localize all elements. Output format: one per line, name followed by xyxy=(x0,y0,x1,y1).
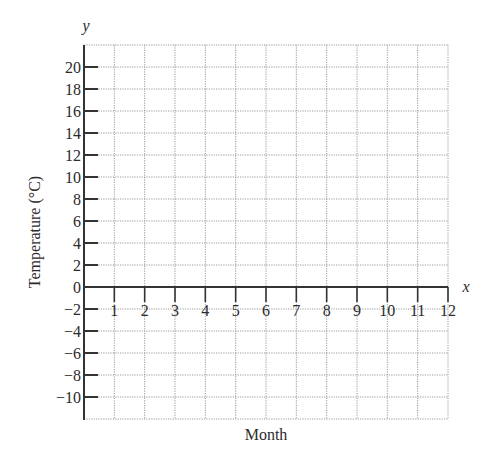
y-tick-label: 10 xyxy=(65,169,81,186)
y-tick-label: −6 xyxy=(64,345,81,362)
x-tick-label: 5 xyxy=(232,302,240,319)
y-axis-ticks: 20181614121086420−2−4−6−8−10 xyxy=(56,59,98,406)
grid-lines xyxy=(84,45,448,419)
x-axis-variable-label: x xyxy=(461,278,469,295)
x-axis-title: Month xyxy=(245,426,288,443)
x-tick-label: 4 xyxy=(201,302,209,319)
y-axis-variable-label: y xyxy=(80,17,90,35)
y-tick-label: 8 xyxy=(73,191,81,208)
x-tick-label: 3 xyxy=(171,302,179,319)
y-axis-title: Temperature (°C) xyxy=(26,176,44,288)
x-tick-label: 6 xyxy=(262,302,270,319)
y-tick-label: 2 xyxy=(73,257,81,274)
y-tick-label: 6 xyxy=(73,213,81,230)
y-tick-label: 14 xyxy=(65,125,81,142)
y-tick-label: −8 xyxy=(64,367,81,384)
x-tick-label: 9 xyxy=(353,302,361,319)
y-tick-label: 12 xyxy=(65,147,81,164)
chart: 20181614121086420−2−4−6−8−10 12345678910… xyxy=(0,0,489,452)
y-tick-label: −10 xyxy=(56,389,81,406)
x-tick-label: 11 xyxy=(410,302,425,319)
x-tick-label: 1 xyxy=(110,302,118,319)
x-tick-label: 12 xyxy=(440,302,456,319)
y-tick-label: 4 xyxy=(73,235,81,252)
y-tick-label: −4 xyxy=(64,323,81,340)
y-tick-label: 20 xyxy=(65,59,81,76)
x-tick-label: 10 xyxy=(379,302,395,319)
y-tick-label: 0 xyxy=(73,279,81,296)
x-tick-label: 7 xyxy=(292,302,300,319)
y-tick-label: 16 xyxy=(65,103,81,120)
y-tick-label: −2 xyxy=(64,301,81,318)
y-tick-label: 18 xyxy=(65,81,81,98)
x-tick-label: 8 xyxy=(323,302,331,319)
x-tick-label: 2 xyxy=(141,302,149,319)
x-axis-ticks: 123456789101112 xyxy=(110,287,456,319)
